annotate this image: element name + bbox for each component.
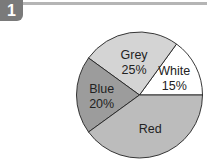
pie-chart: White15%Grey25%Blue20%Red xyxy=(0,0,207,164)
slice-label-red: Red xyxy=(139,122,162,136)
slice-label-grey: Grey25% xyxy=(121,48,149,77)
slice-label-white: White15% xyxy=(158,64,190,93)
slice-label-blue: Blue20% xyxy=(89,82,114,111)
